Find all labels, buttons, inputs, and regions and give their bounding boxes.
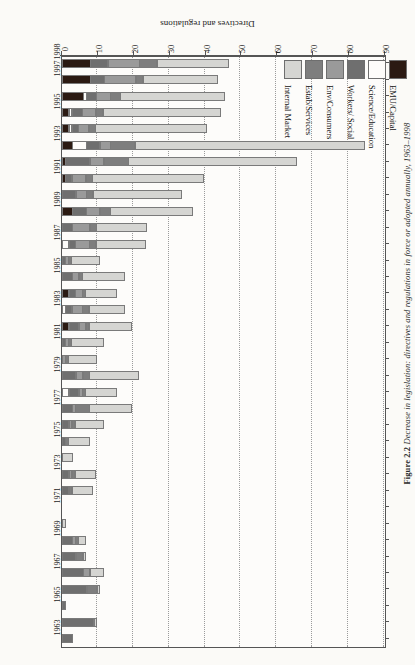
bar-row[interactable]: [62, 404, 385, 413]
stacked-bar[interactable]: [62, 371, 141, 380]
stacked-bar[interactable]: [62, 240, 148, 249]
bar-row[interactable]: [62, 207, 385, 216]
stacked-bar[interactable]: [62, 190, 184, 199]
bar-row[interactable]: [62, 601, 385, 610]
bar-segment[interactable]: [62, 569, 84, 578]
bar-segment[interactable]: [65, 256, 69, 265]
stacked-bar[interactable]: [62, 585, 101, 594]
stacked-bar[interactable]: [62, 355, 98, 364]
bar-segment[interactable]: [90, 223, 97, 232]
bar-row[interactable]: [62, 174, 385, 183]
bar-segment[interactable]: [65, 305, 72, 314]
bar-segment[interactable]: [72, 273, 79, 282]
stacked-bar[interactable]: [62, 273, 127, 282]
bar-row[interactable]: [62, 273, 385, 282]
bar-row[interactable]: [62, 157, 385, 166]
bar-segment[interactable]: [72, 223, 90, 232]
bar-segment[interactable]: [103, 108, 221, 117]
bar-segment[interactable]: [86, 141, 100, 150]
bar-segment[interactable]: [76, 190, 87, 199]
bar-segment[interactable]: [76, 371, 83, 380]
bar-segment[interactable]: [65, 437, 69, 446]
stacked-bar[interactable]: [62, 404, 134, 413]
bar-segment[interactable]: [69, 289, 76, 298]
bar-segment[interactable]: [62, 92, 84, 101]
bar-segment[interactable]: [62, 618, 94, 627]
bar-segment[interactable]: [90, 569, 104, 578]
bar-segment[interactable]: [69, 486, 73, 495]
stacked-bar[interactable]: [62, 634, 73, 643]
bar-segment[interactable]: [62, 404, 73, 413]
bar-segment[interactable]: [72, 536, 76, 545]
bar-segment[interactable]: [62, 634, 73, 643]
bar-segment[interactable]: [72, 141, 86, 150]
bar-row[interactable]: [62, 125, 385, 134]
bar-segment[interactable]: [69, 388, 80, 397]
bar-segment[interactable]: [62, 207, 73, 216]
stacked-bar[interactable]: [62, 601, 66, 610]
bar-segment[interactable]: [86, 174, 93, 183]
bar-row[interactable]: [62, 92, 385, 101]
bar-row[interactable]: [62, 141, 385, 150]
bar-segment[interactable]: [62, 125, 69, 134]
bar-segment[interactable]: [62, 289, 69, 298]
bar-segment[interactable]: [62, 190, 76, 199]
stacked-bar[interactable]: [62, 174, 206, 183]
bar-segment[interactable]: [89, 125, 96, 134]
bar-segment[interactable]: [120, 92, 224, 101]
bar-segment[interactable]: [75, 470, 97, 479]
bar-row[interactable]: [62, 536, 385, 545]
stacked-bar[interactable]: [62, 519, 66, 528]
bar-segment[interactable]: [97, 585, 101, 594]
bar-segment[interactable]: [62, 108, 69, 117]
bar-row[interactable]: [62, 305, 385, 314]
bar-row[interactable]: [62, 421, 385, 430]
bar-segment[interactable]: [62, 240, 69, 249]
bar-segment[interactable]: [89, 240, 96, 249]
stacked-bar[interactable]: [62, 108, 224, 117]
bar-segment[interactable]: [72, 125, 79, 134]
bar-segment[interactable]: [139, 59, 157, 68]
bar-segment[interactable]: [83, 371, 90, 380]
bar-segment[interactable]: [85, 388, 117, 397]
bar-segment[interactable]: [136, 75, 143, 84]
stacked-bar[interactable]: [62, 305, 127, 314]
bar-segment[interactable]: [110, 207, 193, 216]
bar-segment[interactable]: [62, 453, 73, 462]
bar-segment[interactable]: [82, 305, 89, 314]
bar-segment[interactable]: [69, 470, 73, 479]
bar-segment[interactable]: [65, 338, 69, 347]
bar-segment[interactable]: [79, 388, 83, 397]
bar-row[interactable]: [62, 355, 385, 364]
bar-row[interactable]: [62, 338, 385, 347]
bar-row[interactable]: [62, 190, 385, 199]
bar-row[interactable]: [62, 519, 385, 528]
stacked-bar[interactable]: [62, 223, 148, 232]
bar-segment[interactable]: [72, 486, 94, 495]
stacked-bar[interactable]: [62, 338, 105, 347]
bar-segment[interactable]: [69, 108, 73, 117]
bar-segment[interactable]: [71, 338, 103, 347]
bar-segment[interactable]: [65, 355, 69, 364]
stacked-bar[interactable]: [62, 536, 87, 545]
bar-segment[interactable]: [68, 338, 72, 347]
stacked-bar[interactable]: [62, 569, 105, 578]
bar-row[interactable]: [62, 552, 385, 561]
bar-segment[interactable]: [62, 552, 76, 561]
bar-segment[interactable]: [96, 92, 110, 101]
bar-segment[interactable]: [128, 157, 297, 166]
bar-row[interactable]: [62, 437, 385, 446]
bar-segment[interactable]: [108, 59, 140, 68]
bar-segment[interactable]: [75, 289, 82, 298]
bar-segment[interactable]: [79, 322, 86, 331]
bar-row[interactable]: [62, 256, 385, 265]
bar-row[interactable]: [62, 470, 385, 479]
bar-segment[interactable]: [62, 486, 69, 495]
stacked-bar[interactable]: [62, 322, 134, 331]
bar-segment[interactable]: [62, 59, 91, 68]
bar-segment[interactable]: [92, 174, 203, 183]
bar-segment[interactable]: [157, 59, 229, 68]
stacked-bar[interactable]: [62, 388, 119, 397]
bar-segment[interactable]: [62, 305, 66, 314]
bar-segment[interactable]: [110, 141, 135, 150]
